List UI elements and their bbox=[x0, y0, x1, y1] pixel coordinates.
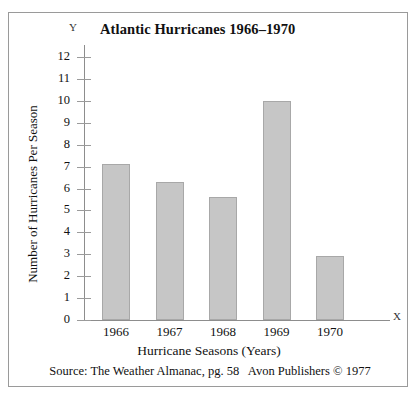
source-note: Source: The Weather Almanac, pg. 58 Avon… bbox=[20, 364, 400, 379]
bar bbox=[263, 101, 291, 320]
bar bbox=[156, 182, 184, 320]
y-axis-tick-label-text: 3 bbox=[44, 247, 70, 260]
y-axis-tick-label: 6 bbox=[42, 182, 70, 195]
y-axis-marker: Y bbox=[69, 21, 77, 33]
y-axis-tick bbox=[77, 254, 91, 255]
x-axis-line bbox=[84, 320, 390, 321]
x-axis-tick-label: 1970 bbox=[300, 324, 360, 340]
y-axis-tick bbox=[77, 320, 91, 321]
y-axis-tick-label: 5 bbox=[42, 203, 70, 216]
y-axis-tick-label: 3 bbox=[42, 247, 70, 260]
y-axis-tick-label: 10 bbox=[42, 94, 70, 107]
y-axis-tick-label: 4 bbox=[42, 225, 70, 238]
chart-page: Atlantic Hurricanes 1966–1970 Y X Number… bbox=[0, 0, 419, 399]
x-axis-tick-label: 1969 bbox=[247, 324, 307, 340]
y-axis-tick-label: 9 bbox=[42, 116, 70, 129]
y-axis-tick bbox=[77, 276, 91, 277]
y-axis-tick bbox=[77, 232, 91, 233]
y-axis-tick bbox=[77, 123, 91, 124]
y-axis-line bbox=[84, 45, 85, 321]
y-axis-tick bbox=[77, 101, 91, 102]
y-axis-title: Number of Hurricanes Per Season bbox=[25, 60, 41, 328]
x-axis-tick-label: 1966 bbox=[86, 324, 146, 340]
x-axis-tick-label: 1967 bbox=[140, 324, 200, 340]
x-axis-title: Hurricane Seasons (Years) bbox=[84, 343, 334, 359]
y-axis-tick bbox=[77, 145, 91, 146]
y-axis-tick bbox=[77, 79, 91, 80]
y-axis-tick-label-text: 9 bbox=[44, 116, 70, 129]
y-axis-tick bbox=[77, 167, 91, 168]
y-axis-tick-label: 2 bbox=[42, 269, 70, 282]
y-axis-tick-label: 12 bbox=[42, 50, 70, 63]
y-axis-tick bbox=[77, 189, 91, 190]
bar bbox=[209, 197, 237, 320]
y-axis-tick-label-text: 5 bbox=[44, 203, 70, 216]
y-axis-tick-label: 11 bbox=[42, 72, 70, 85]
bar bbox=[316, 256, 344, 320]
y-axis-tick bbox=[77, 298, 91, 299]
y-axis-tick-label-text: 10 bbox=[44, 94, 70, 107]
y-axis-tick-label-text: 2 bbox=[44, 269, 70, 282]
x-axis-tick-label: 1968 bbox=[193, 324, 253, 340]
chart-title: Atlantic Hurricanes 1966–1970 bbox=[100, 21, 350, 38]
y-axis-tick-label-text: 12 bbox=[44, 50, 70, 63]
y-axis-tick-label-text: 4 bbox=[44, 225, 70, 238]
y-axis-tick-label: 1 bbox=[42, 291, 70, 304]
y-axis-tick-label: 7 bbox=[42, 160, 70, 173]
y-axis-tick-label-text: 6 bbox=[44, 182, 70, 195]
y-axis-tick-label-text: 7 bbox=[44, 160, 70, 173]
y-axis-tick-label: 8 bbox=[42, 138, 70, 151]
x-axis-marker: X bbox=[393, 310, 401, 322]
y-axis-tick bbox=[77, 210, 91, 211]
y-axis-tick bbox=[77, 57, 91, 58]
y-axis-tick-label-text: 0 bbox=[44, 313, 70, 326]
y-axis-tick-label: 0 bbox=[42, 313, 70, 326]
y-axis-tick-label-text: 11 bbox=[44, 72, 70, 85]
y-axis-tick-label-text: 8 bbox=[44, 138, 70, 151]
y-axis-tick-label-text: 1 bbox=[44, 291, 70, 304]
bar bbox=[102, 164, 130, 320]
